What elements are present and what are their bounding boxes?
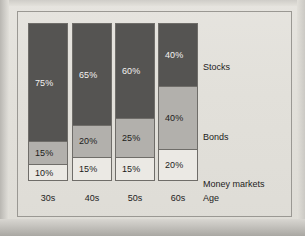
bar-segment-money-markets[interactable]: 10% [29,164,67,180]
bar-segment-stocks[interactable]: 65% [73,24,111,125]
page-mat-right [297,0,305,236]
plot-area: 75% 15% 10% 65% 20% 15% 60% [17,11,290,215]
chart-figure: 75% 15% 10% 65% 20% 15% 60% [0,0,305,236]
bar-segment-bonds[interactable]: 20% [73,125,111,156]
stacked-bar-50s[interactable]: 60% 25% 15% [115,23,155,181]
x-axis-tick-30s: 30s [28,194,68,203]
bar-segment-money-markets[interactable]: 20% [159,149,197,180]
segment-value-label: 20% [165,160,183,169]
bar-segment-stocks[interactable]: 40% [159,24,197,86]
segment-value-label: 25% [122,133,140,142]
bar-segment-stocks[interactable]: 60% [116,24,154,118]
bar-segment-bonds[interactable]: 15% [29,141,67,164]
page-mat-left [0,0,9,236]
bar-segment-bonds[interactable]: 40% [159,86,197,148]
x-axis-title: Age [203,194,219,203]
legend-label-stocks: Stocks [203,63,230,72]
segment-value-label: 15% [79,164,97,173]
x-axis-tick-40s: 40s [72,194,112,203]
segment-value-label: 40% [165,114,183,123]
segment-value-label: 60% [122,66,140,75]
stacked-bar-60s[interactable]: 40% 40% 20% [158,23,198,181]
bar-segment-money-markets[interactable]: 15% [73,157,111,180]
bar-segment-bonds[interactable]: 25% [116,118,154,157]
x-axis-tick-50s: 50s [115,194,155,203]
bar-segment-money-markets[interactable]: 15% [116,157,154,180]
segment-value-label: 15% [35,149,53,158]
segment-value-label: 15% [122,164,140,173]
stacked-bar-30s[interactable]: 75% 15% 10% [28,23,68,181]
legend-label-money-markets: Money markets [203,180,265,189]
legend-label-bonds: Bonds [203,133,229,142]
segment-value-label: 10% [35,168,53,177]
segment-value-label: 65% [79,70,97,79]
segment-value-label: 40% [165,51,183,60]
segment-value-label: 20% [79,137,97,146]
x-axis-tick-60s: 60s [158,194,198,203]
page-mat-bottom [0,219,305,236]
bar-segment-stocks[interactable]: 75% [29,24,67,141]
stacked-bar-40s[interactable]: 65% 20% 15% [72,23,112,181]
segment-value-label: 75% [35,78,53,87]
page-mat-top [0,0,305,6]
